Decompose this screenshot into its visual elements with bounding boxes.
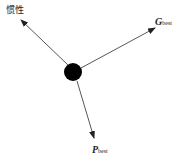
inertia-arrow (21, 20, 68, 65)
gbest-subscript: best (162, 20, 172, 26)
particle-node (64, 63, 82, 81)
gbest-arrow (81, 28, 155, 68)
pbest-arrow (77, 81, 94, 138)
vector-diagram (0, 0, 181, 154)
inertia-label: 惯性 (6, 3, 24, 16)
gbest-label: Gbest (155, 11, 172, 29)
pbest-label: Pbest (92, 139, 108, 154)
pbest-subscript: best (98, 148, 108, 154)
